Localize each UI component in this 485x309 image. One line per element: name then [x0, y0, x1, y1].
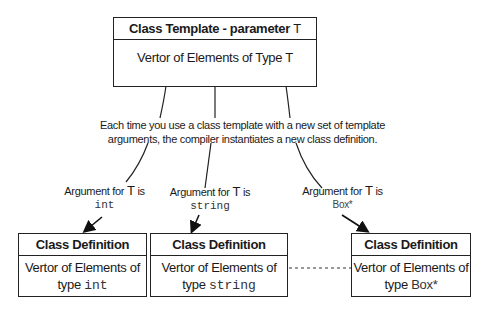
arrow-to-box: [342, 215, 367, 231]
arrow-to-string: [192, 215, 199, 231]
argument-label-int: Argument for T is int: [62, 184, 147, 212]
class-definition-string: Class Definition Vertor of Elements of t…: [150, 233, 288, 297]
class-template-box: Class Template - parameter T Vertor of E…: [113, 17, 317, 87]
arg-prefix: Argument for: [170, 186, 233, 198]
argument-label-box: Argument for T is Box*: [300, 184, 385, 212]
arg-suffix: is: [373, 185, 383, 197]
arg-prefix: Argument for: [64, 185, 127, 197]
class-template-body: Vertor of Elements of Type T: [114, 40, 316, 66]
definition-body: Vertor of Elements of type int: [19, 256, 146, 294]
definition-type-value: int: [84, 278, 107, 293]
definition-line-1: Vertor of Elements of: [151, 259, 287, 276]
arg-prefix: Argument for: [302, 185, 365, 197]
definition-type-value: Box*: [411, 277, 437, 292]
definition-type-word: type: [182, 277, 209, 292]
definition-header: Class Definition: [151, 234, 287, 256]
definition-type-value: string: [209, 278, 256, 293]
definition-header: Class Definition: [19, 234, 146, 256]
arg-param: T: [127, 183, 135, 198]
line-to-arg-int: [126, 143, 148, 182]
note-line-2: arguments, the compiler instantiates a n…: [100, 132, 385, 146]
definition-type-word: type: [385, 277, 412, 292]
template-param: T: [293, 21, 301, 36]
arg-value: string: [165, 199, 255, 213]
template-title: Class Template - parameter: [129, 21, 293, 36]
argument-label-string: Argument for T is string: [165, 185, 255, 213]
line-to-arg-box: [296, 143, 322, 188]
line-to-arg-string: [205, 143, 211, 188]
arg-suffix: is: [135, 185, 145, 197]
arrow-to-int: [85, 217, 102, 231]
note-line-1: Each time you use a class template with …: [100, 118, 385, 132]
line-left: [160, 86, 166, 118]
arg-value: int: [62, 198, 147, 212]
arg-suffix: is: [240, 186, 250, 198]
template-body-text: Vertor of Elements of Type: [137, 50, 285, 65]
arg-param: T: [365, 183, 373, 198]
definition-line-1: Vertor of Elements of: [19, 259, 146, 276]
class-template-header: Class Template - parameter T: [114, 18, 316, 40]
template-body-param: T: [285, 50, 293, 65]
definition-body: Vertor of Elements of type string: [151, 256, 287, 294]
arg-value: Box*: [300, 198, 385, 212]
class-definition-int: Class Definition Vertor of Elements of t…: [18, 233, 147, 297]
line-right: [286, 86, 290, 118]
class-definition-box: Class Definition Vertor of Elements of t…: [351, 233, 471, 297]
definition-body: Vertor of Elements of type Box*: [352, 256, 470, 293]
definition-line-1: Vertor of Elements of: [352, 259, 470, 276]
definition-type-word: type: [57, 277, 84, 292]
arg-param: T: [232, 184, 240, 199]
definition-header: Class Definition: [352, 234, 470, 256]
instantiation-note: Each time you use a class template with …: [100, 118, 385, 146]
